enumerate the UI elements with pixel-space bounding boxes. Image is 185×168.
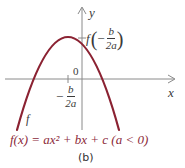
vertex-minus: − [97, 32, 104, 45]
vertex-fraction-num: b [107, 26, 115, 39]
vertex-paren-close: ) [117, 29, 124, 49]
vertex-x-fraction-den: 2a [65, 97, 76, 109]
curve-label: f [26, 113, 29, 125]
vertex-paren-open: ( [91, 29, 98, 49]
x-axis-label: x [168, 86, 174, 99]
vertex-x-fraction-num: b [67, 84, 75, 97]
vertex-x-fraction: b 2a [65, 84, 76, 109]
vertex-value-label: f ( − b 2a ) [86, 26, 123, 51]
vertex-x-label: − b 2a [56, 84, 76, 109]
y-axis-label: y [89, 6, 95, 19]
vertex-func-f: f [86, 32, 90, 45]
origin-label: 0 [73, 66, 79, 77]
function-caption: f(x) = ax² + bx + c (a < 0) [10, 133, 148, 146]
vertex-fraction-den: 2a [106, 39, 117, 51]
subfigure-label: (b) [78, 152, 94, 163]
vertex-x-minus: − [56, 90, 63, 103]
vertex-fraction: b 2a [106, 26, 117, 51]
